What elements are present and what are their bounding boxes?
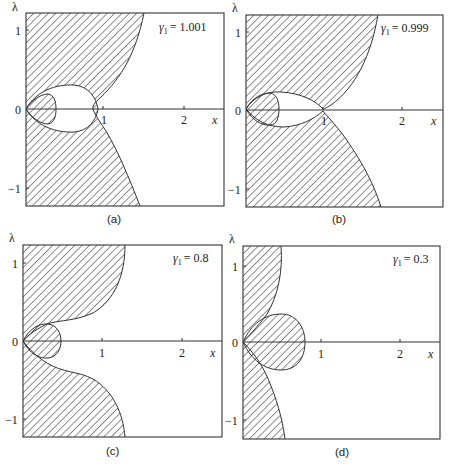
panel-a: λ 1 0 −1 1 2 x γ1= 1.001 <box>26 13 224 206</box>
x-tick-2: 2 <box>181 113 187 127</box>
panel-d: λ 1 0 −1 1 2 x γ1= 0.3 <box>243 246 440 439</box>
y-tick-minus1: −1 <box>225 414 238 428</box>
y-tick-0: 0 <box>232 336 238 350</box>
x-tick-1: 1 <box>101 113 107 127</box>
y-tick-minus1: −1 <box>228 183 241 197</box>
x-tick-2: 2 <box>397 347 403 361</box>
y-tick-0: 0 <box>12 335 18 349</box>
x-tick-2: 2 <box>179 346 185 360</box>
gamma-label: γ1= 0.3 <box>393 252 429 268</box>
x-tick-1: 1 <box>321 114 327 128</box>
x-tick-1: 1 <box>318 347 324 361</box>
plot-d: λ 1 0 −1 1 2 x γ1= 0.3 <box>243 246 440 439</box>
caption-c: (c) <box>106 445 119 457</box>
y-axis-label: λ <box>12 0 18 14</box>
y-tick-0: 0 <box>15 103 21 117</box>
plot-b: λ 1 0 −1 1 2 x γ1= 0.999 <box>246 15 443 207</box>
gamma-label: γ1= 0.8 <box>173 251 209 267</box>
y-tick-minus1: −1 <box>8 182 21 196</box>
y-axis-label: λ <box>229 232 235 246</box>
y-axis-label: λ <box>9 231 15 245</box>
gamma-label: γ1= 0.999 <box>381 21 429 37</box>
panel-b: λ 1 0 −1 1 2 x γ1= 0.999 <box>246 15 443 207</box>
y-tick-0: 0 <box>235 104 241 118</box>
plot-c: λ 1 0 −1 1 2 x γ1= 0.8 <box>23 245 222 437</box>
y-tick-minus1: −1 <box>5 413 18 427</box>
caption-d: (d) <box>335 446 349 458</box>
caption-b: (b) <box>332 213 346 225</box>
y-tick-1: 1 <box>235 26 241 40</box>
x-axis-label: x <box>427 347 434 361</box>
panel-c: λ 1 0 −1 1 2 x γ1= 0.8 <box>23 245 222 437</box>
caption-a: (a) <box>107 213 121 225</box>
x-axis-label: x <box>211 113 218 127</box>
x-tick-2: 2 <box>399 114 405 128</box>
y-tick-1: 1 <box>232 260 238 274</box>
x-axis-label: x <box>430 114 437 128</box>
y-tick-1: 1 <box>12 257 18 271</box>
y-tick-1: 1 <box>15 24 21 38</box>
x-tick-1: 1 <box>99 346 105 360</box>
x-axis-label: x <box>209 346 216 360</box>
y-axis-label: λ <box>232 1 238 15</box>
gamma-label: γ1= 1.001 <box>159 20 207 36</box>
plot-a: λ 1 0 −1 1 2 x γ1= 1.001 <box>26 13 224 206</box>
